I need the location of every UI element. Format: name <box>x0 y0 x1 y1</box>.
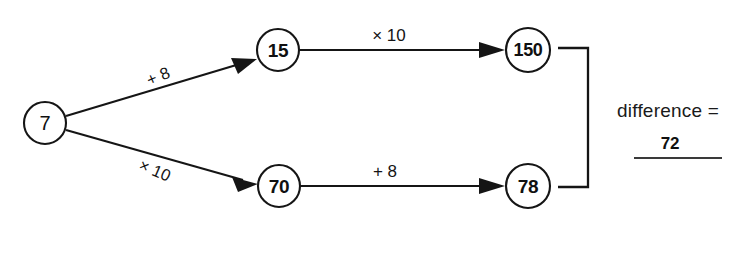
node-label-top-end: 150 <box>513 40 542 60</box>
arrow-head-icon <box>231 58 257 74</box>
node-group: 7 15 150 70 78 <box>24 28 550 208</box>
difference-bracket <box>558 48 588 187</box>
arrow-head-icon <box>479 42 505 58</box>
node-label-bottom-mid: 70 <box>269 176 290 197</box>
edge-label-bottom-mid-to-bottom-end: + 8 <box>373 162 397 181</box>
function-machine-diagram: + 8 × 10 × 10 + 8 7 15 150 70 <box>0 0 752 272</box>
node-start: 7 <box>24 102 66 144</box>
difference-answer-value: 72 <box>661 134 680 153</box>
arrow-head-icon <box>479 178 505 194</box>
difference-result: difference = 72 <box>617 100 722 159</box>
arrow-head-icon <box>232 177 258 192</box>
difference-label: difference = <box>617 100 719 121</box>
node-top-end: 150 <box>506 28 550 72</box>
edge-bottom-mid-to-bottom-end <box>300 178 505 194</box>
node-bottom-end: 78 <box>506 164 550 208</box>
flow-diagram-canvas: + 8 × 10 × 10 + 8 7 15 150 70 <box>0 0 752 272</box>
node-bottom-mid: 70 <box>258 165 300 207</box>
edge-label-top-mid-to-top-end: × 10 <box>372 26 406 45</box>
node-top-mid: 15 <box>257 29 299 71</box>
node-label-top-mid: 15 <box>268 40 289 61</box>
node-label-start: 7 <box>40 112 51 134</box>
node-label-bottom-end: 78 <box>518 176 539 197</box>
